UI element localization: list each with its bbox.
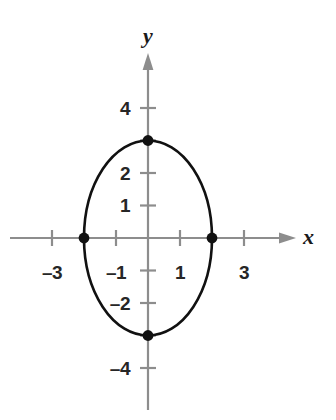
y-tick-label-1: 1 [98,196,130,215]
y-tick-label-2: 2 [98,164,130,183]
x-tick-label-neg1: –1 [96,263,136,282]
x-tick-label-1: 1 [164,263,196,282]
y-tick-label-neg2: –2 [90,294,130,313]
y-tick-label-neg4: –4 [90,359,130,378]
graph-figure: 4 2 1 –2 –4 –3 –1 1 3 y x [0,0,336,420]
x-tick-label-3: 3 [228,263,260,282]
point-top-vertex [143,135,154,146]
point-right-co-vertex [207,233,218,244]
coordinate-plane-svg [0,0,336,420]
x-axis-label: x [303,226,314,248]
y-axis [143,53,154,410]
point-bottom-vertex [143,330,154,341]
point-left-co-vertex [79,233,90,244]
y-axis-label: y [143,25,153,47]
x-tick-label-neg3: –3 [32,263,72,282]
y-tick-label-4: 4 [98,99,130,118]
